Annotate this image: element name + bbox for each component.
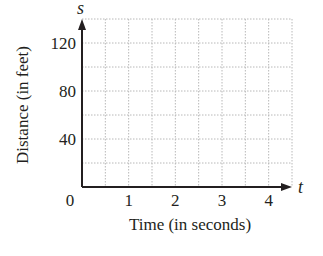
tick-labels: 12344080120 — [51, 34, 274, 210]
y-axis-arrow-icon — [78, 19, 86, 30]
x-axis-variable: t — [298, 177, 304, 197]
x-axis-title: Time (in seconds) — [129, 215, 251, 234]
chart-canvas: 12344080120 t s 0 Time (in seconds) Dist… — [0, 0, 323, 256]
x-tick-label: 4 — [264, 191, 273, 210]
axes — [78, 19, 292, 191]
x-tick-label: 2 — [171, 191, 180, 210]
grid-lines — [82, 19, 292, 187]
x-axis-arrow-icon — [281, 183, 292, 191]
y-axis-variable: s — [77, 0, 84, 18]
origin-label: 0 — [66, 191, 75, 210]
y-tick-label: 120 — [51, 34, 77, 53]
x-tick-label: 1 — [124, 191, 133, 210]
x-tick-label: 3 — [218, 191, 227, 210]
y-tick-label: 80 — [59, 82, 76, 101]
y-axis-title: Distance (in feet) — [13, 46, 32, 164]
y-tick-label: 40 — [59, 130, 76, 149]
